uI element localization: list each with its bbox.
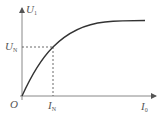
un-label: UN <box>5 41 17 53</box>
origin-label: O <box>10 99 18 110</box>
characteristic-curve <box>22 21 145 97</box>
diagram-canvas: U1 I0 O UN IN <box>0 0 165 114</box>
in-label: IN <box>48 100 56 112</box>
y-axis-label: U1 <box>26 4 37 16</box>
x-axis-label: I0 <box>141 101 148 113</box>
diagram-graphics <box>0 0 165 114</box>
